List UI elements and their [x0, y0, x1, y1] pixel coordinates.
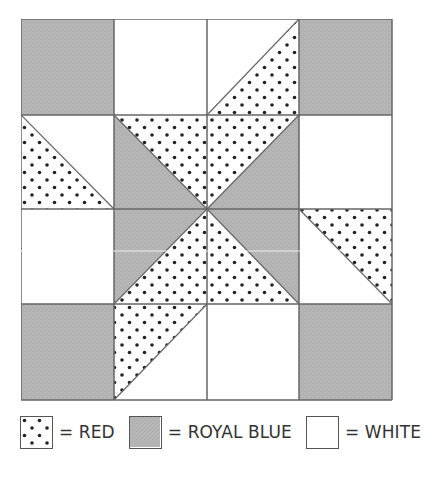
quilt-cell [114, 19, 207, 115]
red-dotted-swatch-icon [20, 416, 53, 449]
royal-blue-gray-swatch-icon [129, 416, 162, 449]
quilt-cell [299, 209, 392, 304]
quilt-cell [299, 19, 392, 115]
quilt-cell [299, 304, 392, 400]
legend-item-red: = RED [20, 416, 129, 449]
legend-item-white: = WHITE [306, 416, 435, 449]
quilt-cell [114, 304, 207, 400]
quilt-cell [114, 209, 207, 304]
quilt-cell [207, 304, 299, 400]
quilt-block-diagram [21, 19, 393, 401]
quilt-cell [114, 115, 207, 209]
quilt-cell [207, 115, 299, 209]
quilt-cell [21, 209, 114, 304]
quilt-cell [299, 115, 392, 209]
legend-item-royal-blue: = ROYAL BLUE [129, 416, 306, 449]
quilt-cell [21, 115, 114, 209]
quilt-cell [21, 19, 114, 115]
quilt-cell [207, 19, 299, 115]
legend-label-red: = RED [59, 422, 115, 442]
white-swatch-icon [306, 416, 339, 449]
quilt-cell [207, 209, 299, 304]
quilt-cell [21, 304, 114, 400]
legend: = RED = ROYAL BLUE = WHITE [20, 414, 435, 450]
legend-label-royal-blue: = ROYAL BLUE [168, 422, 292, 442]
legend-label-white: = WHITE [345, 422, 421, 442]
